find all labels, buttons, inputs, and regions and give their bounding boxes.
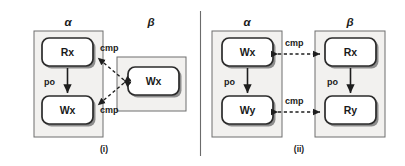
relation-label-i-cmp-2: cmp xyxy=(100,105,119,115)
thread-label-beta-panel-ii: β xyxy=(345,16,353,28)
event-node-label: Wx xyxy=(146,75,162,87)
relation-label-ii-cmp-1: cmp xyxy=(285,38,304,48)
relation-label-ii-po-2: po xyxy=(327,77,338,87)
thread-label-alpha-panel-ii: α xyxy=(243,16,251,28)
event-node-label: Rx xyxy=(61,46,75,58)
event-node-ii-alpha-wx[interactable]: Wx xyxy=(222,38,276,69)
thread-label-alpha-panel-i: α xyxy=(64,16,72,28)
event-node-label: Rx xyxy=(344,46,358,58)
event-node-label: Ry xyxy=(344,104,358,116)
panel-i: α β Rx Wx Wx p xyxy=(34,16,186,154)
panel-caption-i: (i) xyxy=(100,144,108,154)
figure-container: α β Rx Wx Wx p xyxy=(0,0,405,166)
event-node-i-beta-wx[interactable]: Wx xyxy=(128,67,182,98)
event-node-label: Wy xyxy=(240,104,256,116)
relation-label-ii-po-1: po xyxy=(224,77,235,87)
event-node-ii-beta-ry[interactable]: Ry xyxy=(325,96,379,127)
relation-label-i-po-1: po xyxy=(44,77,55,87)
event-node-i-alpha-wx[interactable]: Wx xyxy=(42,96,96,127)
event-node-i-alpha-rx[interactable]: Rx xyxy=(42,38,96,69)
relation-label-ii-cmp-2: cmp xyxy=(285,96,304,106)
relation-label-i-cmp-1: cmp xyxy=(100,43,119,53)
event-node-ii-beta-rx[interactable]: Rx xyxy=(325,38,379,69)
event-node-ii-alpha-wy[interactable]: Wy xyxy=(222,96,276,127)
event-node-label: Wx xyxy=(240,46,256,58)
event-node-label: Wx xyxy=(60,104,76,116)
diagram-canvas: α β Rx Wx Wx p xyxy=(0,0,405,166)
thread-label-beta-panel-i: β xyxy=(146,16,154,28)
panel-ii: α β Wx Wy Rx xyxy=(212,16,385,154)
panel-caption-ii: (ii) xyxy=(294,144,305,154)
